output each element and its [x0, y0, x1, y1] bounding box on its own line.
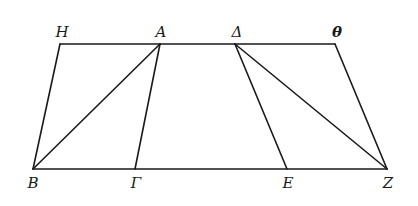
label-delta: Δ — [231, 23, 243, 41]
segment-delta-z — [235, 44, 387, 169]
segment-delta-e — [235, 44, 287, 169]
segment-a-b — [33, 44, 160, 169]
segment-theta-z — [335, 44, 387, 169]
label-e: E — [282, 174, 294, 192]
label-z: Z — [382, 174, 394, 192]
segment-h-b — [33, 44, 60, 169]
geometry-diagram: H A Δ θ B Γ E Z — [0, 0, 418, 206]
label-h: H — [54, 23, 69, 41]
label-gamma: Γ — [130, 174, 142, 192]
label-theta: θ — [332, 23, 342, 41]
label-b: B — [26, 174, 38, 192]
segment-a-gamma — [135, 44, 160, 169]
label-a: A — [154, 23, 167, 41]
